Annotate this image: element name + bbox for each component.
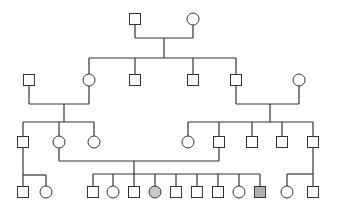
female-circle-icon — [182, 136, 194, 148]
male-square-icon — [130, 75, 141, 86]
pedigree-lines — [23, 25, 313, 186]
male-square-icon — [247, 137, 258, 148]
female-circle-icon — [83, 74, 95, 86]
female-circle-icon — [233, 186, 245, 198]
female-circle-icon — [293, 74, 305, 86]
male-square-icon — [192, 187, 203, 198]
affected-male-square-icon — [255, 187, 266, 198]
male-square-icon — [188, 75, 199, 86]
pedigree-diagram — [0, 0, 339, 212]
female-circle-icon — [53, 136, 65, 148]
female-circle-icon — [40, 186, 52, 198]
male-square-icon — [308, 137, 319, 148]
male-square-icon — [214, 137, 225, 148]
male-square-icon — [231, 75, 242, 86]
female-circle-icon — [107, 186, 119, 198]
pedigree-individuals — [18, 13, 319, 198]
male-square-icon — [171, 187, 182, 198]
male-square-icon — [277, 137, 288, 148]
female-circle-icon — [281, 186, 293, 198]
male-square-icon — [88, 187, 99, 198]
male-square-icon — [130, 14, 141, 25]
male-square-icon — [213, 187, 224, 198]
male-square-icon — [18, 187, 29, 198]
affected-female-circle-icon — [149, 186, 161, 198]
male-square-icon — [129, 187, 140, 198]
female-circle-icon — [187, 13, 199, 25]
male-square-icon — [24, 75, 35, 86]
female-circle-icon — [88, 136, 100, 148]
male-square-icon — [308, 187, 319, 198]
male-square-icon — [18, 137, 29, 148]
